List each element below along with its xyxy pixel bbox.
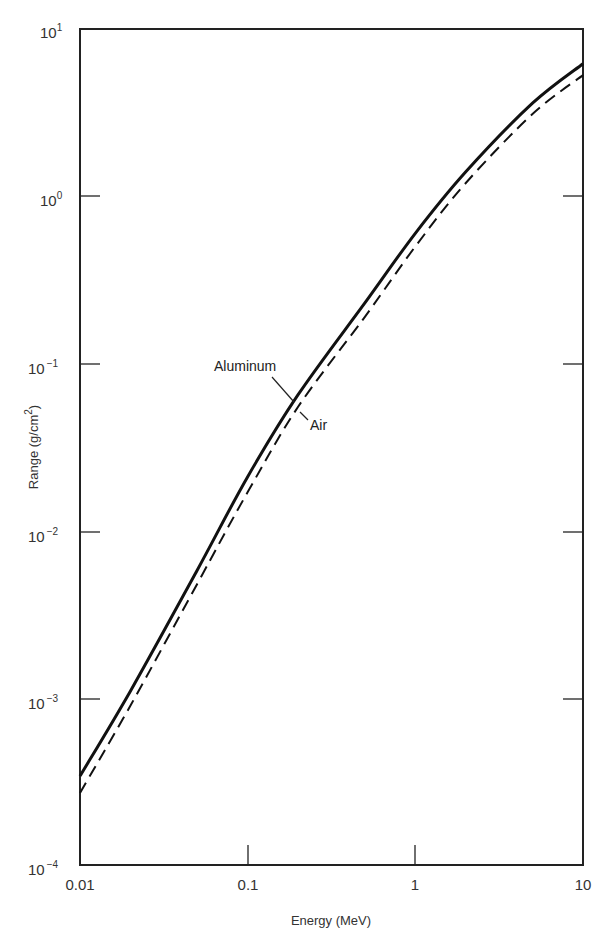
svg-text:10−2: 10−2: [28, 526, 59, 545]
plot-frame: [80, 29, 583, 865]
svg-text:0.01: 0.01: [65, 876, 94, 893]
svg-text:10: 10: [575, 876, 592, 893]
air-leader: [300, 412, 308, 420]
x-tick-labels: 0.01 0.1 1 10: [65, 876, 591, 893]
aluminum-leader: [272, 377, 294, 402]
svg-text:0.1: 0.1: [238, 876, 259, 893]
y-axis-title: Range (g/cm2): [23, 405, 41, 489]
svg-text:101: 101: [40, 22, 63, 41]
aluminum-curve: [80, 64, 583, 776]
range-energy-chart: 101 100 10−1 10−2 10−3 10−4 0.01 0.1 1 1…: [0, 0, 608, 945]
air-label: Air: [310, 417, 327, 433]
x-axis-title: Energy (MeV): [291, 913, 371, 928]
svg-text:1: 1: [411, 876, 419, 893]
aluminum-label: Aluminum: [214, 358, 276, 374]
air-curve: [80, 75, 583, 793]
x-ticks: [248, 845, 415, 865]
svg-text:10−4: 10−4: [28, 859, 59, 878]
svg-text:10−1: 10−1: [28, 358, 59, 377]
svg-text:100: 100: [40, 190, 63, 209]
svg-text:10−3: 10−3: [28, 693, 59, 712]
y-ticks: [80, 196, 583, 699]
